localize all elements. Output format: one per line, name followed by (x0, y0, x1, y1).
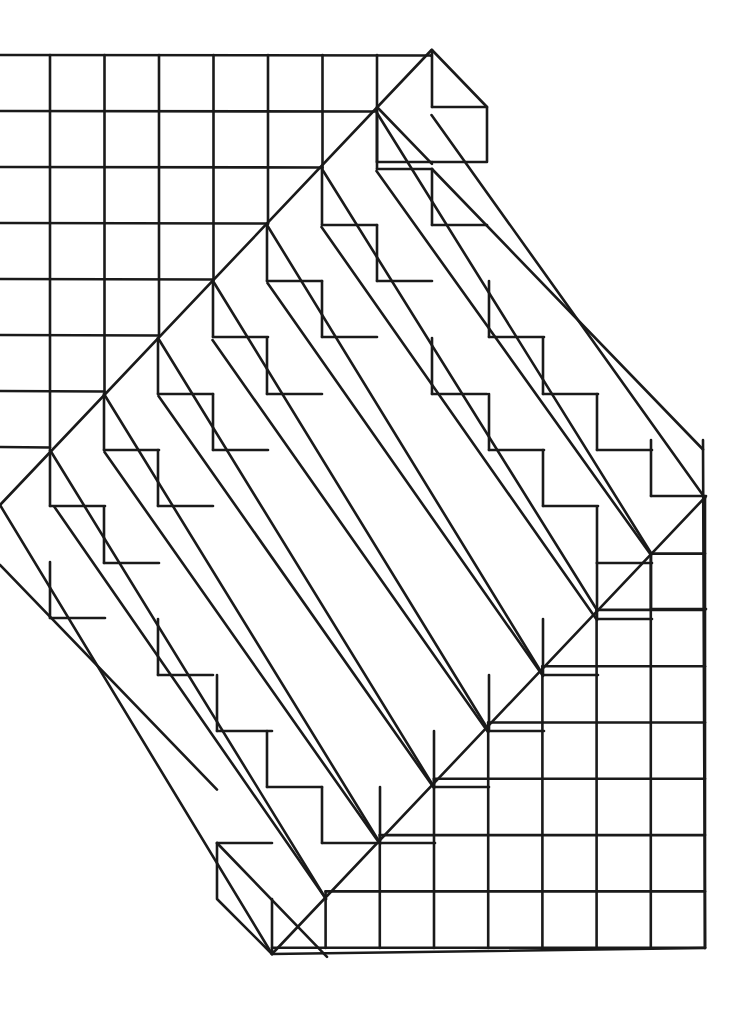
line-art (0, 50, 706, 957)
staircase-illusion-drawing (0, 0, 736, 1017)
